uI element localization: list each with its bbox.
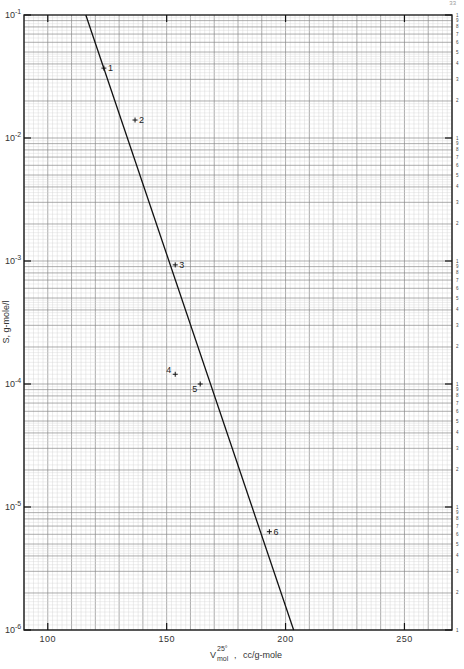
y-tick-label: 10-2 (5, 131, 21, 143)
right-minor-label: 7 (456, 32, 459, 37)
right-minor-label: 2 (456, 590, 459, 595)
right-minor-label: 1 (456, 136, 459, 141)
right-minor-label: 9 (456, 141, 459, 146)
right-minor-label: 1 (456, 382, 459, 387)
right-minor-label: 1 (456, 13, 459, 18)
data-points: 123456 (101, 63, 278, 537)
point-label: 1 (108, 63, 113, 73)
right-minor-label: 4 (456, 430, 459, 435)
y-tick-label: 10-3 (5, 254, 21, 266)
x-tick-label: 200 (277, 634, 294, 644)
x-axis-title-sub: mol (217, 655, 229, 662)
right-minor-label: 5 (456, 50, 459, 55)
right-minor-label: 3 (456, 446, 459, 451)
right-minor-label: 3 (456, 323, 459, 328)
data-point-6: 6 (267, 527, 279, 537)
right-minor-label: 3 (456, 200, 459, 205)
right-minor-label: 7 (456, 278, 459, 283)
y-tick-label: 10-5 (5, 500, 21, 512)
right-minor-label: 6 (456, 286, 459, 291)
right-minor-label: 9 (456, 510, 459, 515)
x-tick-label: 250 (396, 634, 413, 644)
y-axis-title: S, g-mole/l (1, 300, 11, 343)
right-minor-label: 5 (456, 296, 459, 301)
x-axis-title-units: cc/g-mole (243, 650, 282, 660)
right-minor-label: 4 (456, 307, 459, 312)
right-minor-label: 5 (456, 542, 459, 547)
data-point-5: 5 (192, 382, 203, 395)
right-minor-labels: 1234567891234567891234567891234567891234… (456, 13, 459, 633)
right-minor-label: 8 (456, 24, 459, 29)
solubility-chart: 10-110-210-310-410-510-6 100150200250 12… (0, 0, 464, 669)
right-minor-label: 3 (456, 569, 459, 574)
right-minor-label: 5 (456, 419, 459, 424)
x-tick-label: 100 (40, 634, 57, 644)
right-minor-label: 6 (456, 40, 459, 45)
right-minor-label: 6 (456, 163, 459, 168)
right-minor-label: 8 (456, 270, 459, 275)
right-minor-label: 9 (456, 18, 459, 23)
x-tick-label: 150 (158, 634, 175, 644)
right-minor-label: 3 (456, 77, 459, 82)
right-minor-label: 4 (456, 553, 459, 558)
right-minor-label: 9 (456, 387, 459, 392)
x-axis-title-base: V (210, 650, 216, 660)
x-axis-tick-labels: 100150200250 (40, 634, 413, 644)
point-label: 4 (166, 365, 171, 375)
y-tick-label: 10-4 (5, 377, 21, 389)
right-minor-label: 7 (456, 155, 459, 160)
right-minor-label: 2 (456, 467, 459, 472)
y-axis-title-text: S, g-mole/l (1, 300, 11, 343)
graph-paper-grid (24, 15, 452, 630)
right-minor-label: 4 (456, 184, 459, 189)
right-minor-label: 8 (456, 147, 459, 152)
right-minor-label: 2 (456, 221, 459, 226)
fit-line (86, 15, 294, 630)
x-axis-title-sep: , (234, 650, 237, 660)
x-axis-title: V 25° mol , cc/g-mole (210, 645, 282, 662)
right-minor-label: 5 (456, 173, 459, 178)
y-tick-label: 10-1 (5, 8, 21, 20)
right-minor-label: 7 (456, 401, 459, 406)
right-minor-label: 4 (456, 61, 459, 66)
x-axis-title-sup: 25° (217, 645, 228, 652)
point-label: 6 (273, 527, 278, 537)
right-minor-label: 1 (456, 628, 459, 633)
right-minor-label: 2 (456, 98, 459, 103)
data-point-3: 3 (173, 260, 185, 270)
point-label: 3 (179, 260, 184, 270)
right-minor-label: 9 (456, 264, 459, 269)
right-minor-label: 6 (456, 409, 459, 414)
y-tick-label: 10-6 (5, 623, 21, 635)
right-minor-label: 1 (456, 259, 459, 264)
point-label: 5 (192, 384, 197, 394)
right-minor-label: 1 (456, 505, 459, 510)
right-minor-label: 8 (456, 393, 459, 398)
right-minor-label: 7 (456, 524, 459, 529)
right-minor-label: 8 (456, 516, 459, 521)
right-minor-label: 2 (456, 344, 459, 349)
right-minor-label: 6 (456, 532, 459, 537)
point-label: 2 (139, 115, 144, 125)
